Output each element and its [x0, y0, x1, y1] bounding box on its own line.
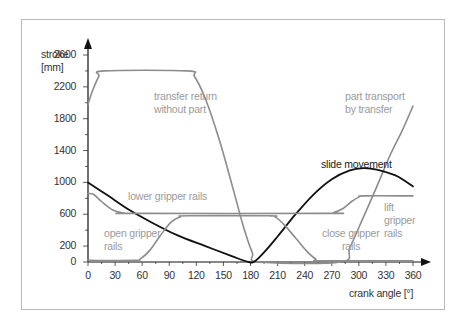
y-tick-label: 1800	[42, 112, 76, 124]
annotation-line: open gripper	[104, 227, 161, 240]
annotation-lower-gripper-rails: lower gripper rails	[128, 190, 207, 203]
annotation-slide-movement: slide movement	[321, 158, 392, 171]
x-tick-label: 330	[371, 269, 401, 281]
annotation-close-gripper-rails: close gripper rails	[322, 227, 380, 253]
y-tick-label: 1000	[42, 175, 76, 187]
x-tick-label: 60	[127, 269, 157, 281]
annotation-line: transfer return	[154, 90, 217, 103]
annotation-line: rails	[322, 240, 380, 253]
x-tick-label: 120	[181, 269, 211, 281]
x-tick-label: 300	[344, 269, 374, 281]
y-tick-label: 1400	[42, 144, 76, 156]
annotation-line: rails	[104, 240, 161, 253]
x-tick-label: 30	[100, 269, 130, 281]
annotation-part-transport: part transport by transfer	[345, 90, 405, 116]
y-axis-title-line2: [mm]	[41, 61, 68, 74]
annotation-lift-gripper-rails: lift gripper rails	[384, 201, 415, 240]
y-tick-label: 600	[42, 207, 76, 219]
annotation-open-gripper-rails: open gripper rails	[104, 227, 161, 253]
x-tick-label: 150	[208, 269, 238, 281]
x-axis-arrow-icon	[421, 258, 431, 266]
y-tick-label: 0	[42, 255, 76, 267]
y-tick-label: 200	[42, 239, 76, 251]
y-tick-label: 2200	[42, 80, 76, 92]
annotation-line: without part	[154, 103, 217, 116]
x-tick-label: 210	[263, 269, 293, 281]
y-axis-arrow-icon	[84, 38, 92, 49]
annotation-line: gripper	[384, 214, 415, 227]
x-axis-title: crank angle [°]	[349, 287, 413, 300]
annotation-line: rails	[384, 227, 415, 240]
x-tick-label: 90	[154, 269, 184, 281]
annotation-line: lift	[384, 201, 415, 214]
y-axis-title: stroke [mm]	[41, 48, 68, 74]
y-axis-title-line1: stroke	[41, 48, 68, 61]
annotation-line: close gripper	[322, 227, 380, 240]
annotation-line: part transport	[345, 90, 405, 103]
annotation-transfer-return: transfer return without part	[154, 90, 217, 116]
x-tick-label: 240	[290, 269, 320, 281]
x-tick-label: 0	[73, 269, 103, 281]
x-tick-label: 360	[398, 269, 428, 281]
x-tick-label: 270	[317, 269, 347, 281]
annotation-line: by transfer	[345, 103, 405, 116]
x-tick-label: 180	[236, 269, 266, 281]
